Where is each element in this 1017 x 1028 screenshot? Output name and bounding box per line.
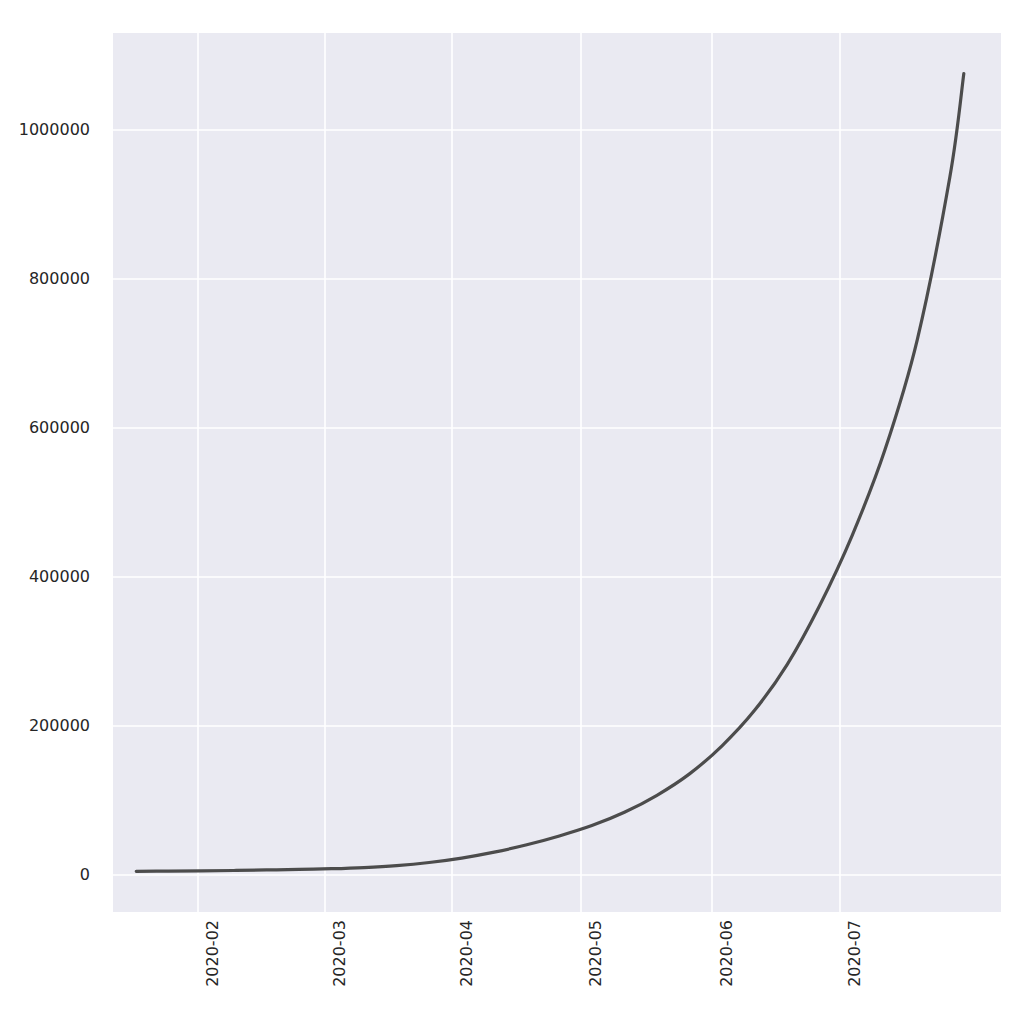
vertical-gridlines xyxy=(198,33,840,912)
plot-area xyxy=(113,33,1001,912)
chart-svg xyxy=(113,33,1001,912)
x-tick-label-2020-03: 2020-03 xyxy=(332,920,348,987)
y-tick-label-800000: 800000 xyxy=(29,271,90,287)
x-tick-label-2020-05: 2020-05 xyxy=(588,920,604,987)
x-tick-label-2020-04: 2020-04 xyxy=(459,920,475,987)
x-tick-label-2020-07: 2020-07 xyxy=(847,920,863,987)
x-axis-tick-labels: 2020-02 2020-03 2020-04 2020-05 2020-06 … xyxy=(0,912,1017,1028)
y-tick-label-200000: 200000 xyxy=(29,718,90,734)
figure-canvas: 1000000 800000 600000 400000 200000 0 xyxy=(0,0,1017,1028)
x-tick-label-2020-02: 2020-02 xyxy=(205,920,221,987)
y-tick-label-0: 0 xyxy=(80,867,90,883)
y-tick-label-400000: 400000 xyxy=(29,569,90,585)
y-tick-label-600000: 600000 xyxy=(29,420,90,436)
y-tick-label-1000000: 1000000 xyxy=(19,122,90,138)
y-axis-tick-labels: 1000000 800000 600000 400000 200000 0 xyxy=(0,0,104,1028)
horizontal-gridlines xyxy=(113,130,1001,875)
x-tick-label-2020-06: 2020-06 xyxy=(719,920,735,987)
